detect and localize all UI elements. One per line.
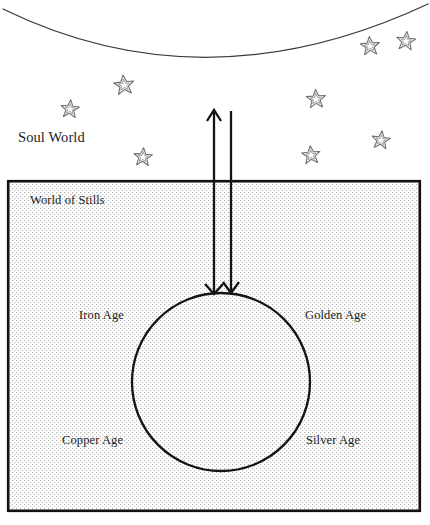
label-iron-age: Iron Age bbox=[79, 309, 124, 322]
label-soul-world: Soul World bbox=[18, 130, 85, 145]
star-field bbox=[60, 31, 416, 166]
star-icon bbox=[360, 36, 380, 55]
diagram-canvas: Soul World World of Stills Iron Age Gold… bbox=[0, 0, 430, 525]
soul-world-boundary-arc bbox=[3, 4, 428, 57]
star-icon bbox=[301, 145, 321, 164]
star-icon bbox=[396, 31, 417, 51]
label-silver-age: Silver Age bbox=[306, 434, 360, 447]
star-icon bbox=[371, 130, 391, 149]
label-golden-age: Golden Age bbox=[305, 309, 366, 322]
label-world-of-stills: World of Stills bbox=[30, 194, 105, 207]
star-icon bbox=[113, 74, 135, 95]
star-icon bbox=[306, 89, 326, 108]
label-copper-age: Copper Age bbox=[62, 434, 123, 447]
star-icon bbox=[60, 99, 80, 118]
star-icon bbox=[133, 147, 153, 166]
